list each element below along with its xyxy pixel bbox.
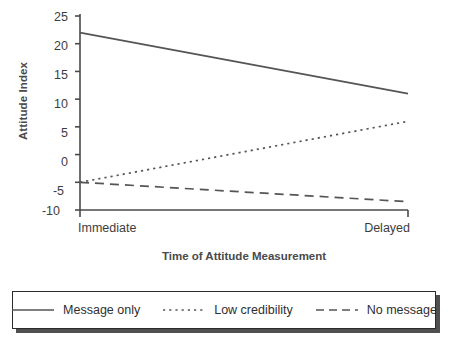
plot-area: Attitude Index 25 20 15 10 5 0 -5 -10 Im… — [0, 0, 454, 285]
series-line-1 — [80, 121, 408, 182]
series-line-2 — [80, 182, 408, 201]
legend-label-low-credibility: Low credibility — [214, 303, 293, 317]
legend-label-no-message: No message — [367, 303, 437, 317]
chart-figure: Attitude Index 25 20 15 10 5 0 -5 -10 Im… — [0, 0, 454, 348]
chart-legend: Message only Low credibility No message — [12, 291, 436, 329]
legend-label-message-only: Message only — [63, 303, 140, 317]
legend-item-no-message: No message — [315, 303, 437, 317]
solid-line-swatch — [11, 305, 55, 315]
dashed-line-swatch — [315, 305, 359, 315]
legend-item-message-only: Message only — [11, 303, 140, 317]
series-line-0 — [80, 33, 408, 94]
axis-lines — [80, 14, 408, 210]
tick-marks — [75, 16, 408, 217]
data-series-layer — [80, 33, 408, 202]
dotted-line-swatch — [162, 305, 206, 315]
legend-item-low-credibility: Low credibility — [162, 303, 293, 317]
chart-canvas — [0, 0, 454, 285]
